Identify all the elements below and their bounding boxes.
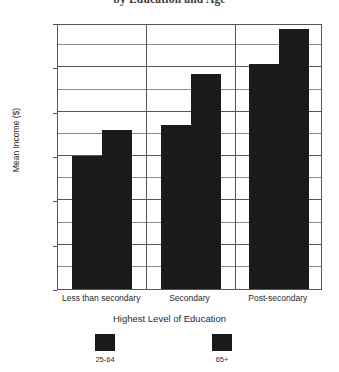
legend: 25-6465+ — [0, 334, 339, 372]
legend-label: 65+ — [182, 355, 262, 364]
legend-item[interactable]: 65+ — [182, 334, 262, 364]
legend-item[interactable]: 25-64 — [65, 334, 145, 364]
bar — [279, 29, 309, 289]
x-axis-category-label: Post-secondary — [234, 293, 322, 303]
y-axis-title: Mean Income ($) — [11, 80, 21, 200]
legend-label: 25-64 — [65, 355, 145, 364]
legend-swatch — [95, 334, 115, 351]
group-separator — [146, 25, 147, 289]
bar — [102, 130, 132, 289]
chart-container: by Education and Age Mean Income ($) 050… — [0, 0, 339, 372]
bar — [72, 156, 102, 289]
bar — [161, 125, 191, 289]
group-separator — [235, 25, 236, 289]
y-axis-tick-mark — [53, 290, 57, 291]
bar — [191, 74, 221, 289]
plot-area — [57, 24, 322, 290]
x-axis-title: Highest Level of Education — [0, 313, 339, 324]
legend-swatch — [212, 334, 232, 351]
chart-title: by Education and Age — [0, 0, 339, 5]
x-axis-category-label: Less than secondary — [57, 293, 145, 303]
x-axis-category-label: Secondary — [145, 293, 233, 303]
bar — [249, 64, 279, 289]
